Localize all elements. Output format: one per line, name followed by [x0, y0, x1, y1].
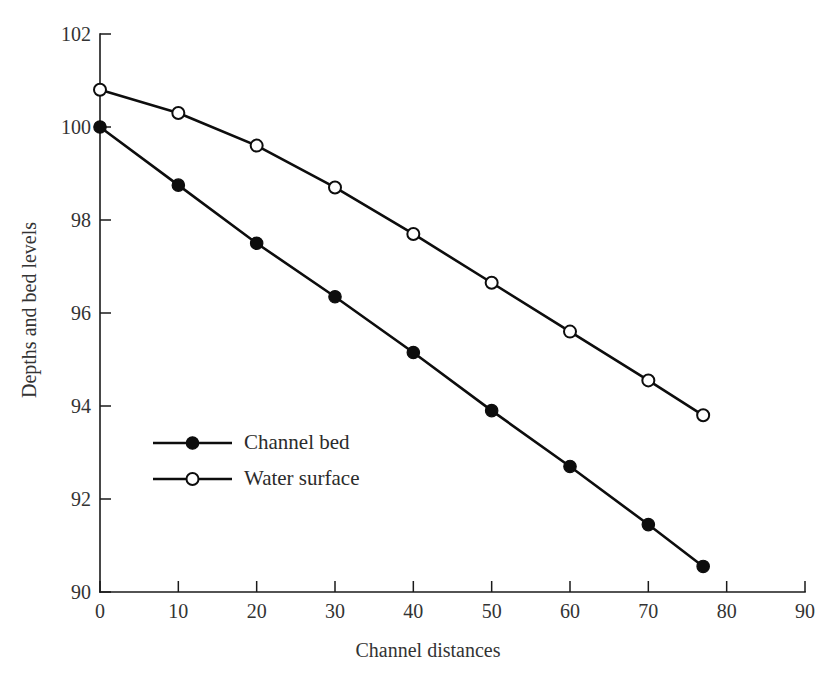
- chart-legend: Channel bedWater surface: [153, 430, 359, 490]
- y-tick-label: 102: [61, 23, 91, 45]
- x-tick-label: 20: [247, 600, 267, 622]
- data-point-marker: [407, 228, 419, 240]
- series-path: [100, 90, 703, 416]
- legend-label: Channel bed: [244, 430, 350, 454]
- x-tick-label: 60: [560, 600, 580, 622]
- data-point-marker: [250, 237, 262, 249]
- series-path: [100, 127, 703, 566]
- legend-entry: Water surface: [153, 466, 359, 490]
- data-point-marker: [94, 84, 106, 96]
- x-tick-label: 50: [482, 600, 502, 622]
- line-chart: 9092949698100102 0102030405060708090 Cha…: [0, 0, 836, 674]
- series-water-surface: [94, 84, 709, 422]
- data-point-marker: [172, 179, 184, 191]
- legend-entry: Channel bed: [153, 430, 350, 454]
- legend-marker: [186, 437, 198, 449]
- data-point-marker: [329, 181, 341, 193]
- data-point-marker: [485, 404, 497, 416]
- data-series-layer: [94, 84, 710, 573]
- axis-group: [100, 34, 805, 592]
- x-tick-label: 90: [795, 600, 815, 622]
- data-point-marker: [329, 291, 341, 303]
- legend-marker: [187, 473, 199, 485]
- y-tick-label: 96: [71, 302, 91, 324]
- data-point-marker: [697, 560, 709, 572]
- x-tick-label: 0: [95, 600, 105, 622]
- chart-figure: 9092949698100102 0102030405060708090 Cha…: [0, 0, 836, 674]
- y-tick-label: 90: [71, 581, 91, 603]
- data-point-marker: [564, 326, 576, 338]
- data-point-marker: [697, 409, 709, 421]
- x-tick-label: 10: [168, 600, 188, 622]
- data-point-marker: [564, 460, 576, 472]
- data-point-marker: [407, 346, 419, 358]
- x-tick-label: 70: [638, 600, 658, 622]
- data-point-marker: [642, 374, 654, 386]
- x-tick-label: 80: [717, 600, 737, 622]
- series-channel-bed: [94, 121, 710, 573]
- y-axis-ticks: 9092949698100102: [61, 23, 111, 603]
- data-point-marker: [94, 121, 106, 133]
- x-tick-label: 30: [325, 600, 345, 622]
- data-point-marker: [642, 518, 654, 530]
- x-tick-label: 40: [403, 600, 423, 622]
- y-tick-label: 92: [71, 488, 91, 510]
- x-axis-ticks: 0102030405060708090: [95, 581, 815, 622]
- y-tick-label: 100: [61, 116, 91, 138]
- y-axis-title: Depths and bed levels: [18, 222, 41, 398]
- data-point-marker: [486, 277, 498, 289]
- y-tick-label: 98: [71, 209, 91, 231]
- legend-label: Water surface: [244, 466, 359, 490]
- y-tick-label: 94: [71, 395, 91, 417]
- data-point-marker: [251, 140, 263, 152]
- x-axis-title: Channel distances: [356, 639, 501, 661]
- data-point-marker: [172, 107, 184, 119]
